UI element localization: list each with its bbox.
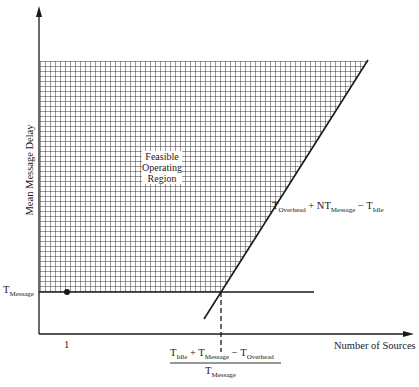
x-axis-label: Number of Sources bbox=[334, 340, 416, 351]
region-label-line-1: Feasible bbox=[142, 151, 182, 162]
num-sub-1: Idle bbox=[176, 353, 187, 361]
t-message-label: TMessage bbox=[3, 284, 34, 295]
region-label-line-2: Operating bbox=[142, 162, 182, 173]
t-message-sub: Message bbox=[9, 290, 34, 298]
den-sub: Message bbox=[211, 371, 236, 379]
eq-sub-2: Message bbox=[331, 206, 356, 214]
num-sub-2: Message bbox=[205, 353, 230, 361]
eq-sub-1: Overhead bbox=[278, 206, 305, 214]
eq-term-3: − T bbox=[355, 200, 372, 211]
intersection-numerator: TIdle + TMessage − TOverhead bbox=[170, 347, 274, 358]
diagonal-line-equation: TOverhead + NTMessage − TIdle bbox=[272, 200, 384, 211]
x-axis-arrow-icon bbox=[403, 331, 414, 337]
num-term-3: − T bbox=[229, 347, 246, 358]
diagram-canvas bbox=[0, 0, 419, 387]
x-tick-1: 1 bbox=[64, 339, 69, 350]
intersection-denominator: TMessage bbox=[205, 365, 236, 376]
feasible-region bbox=[40, 61, 367, 292]
region-label-line-3: Region bbox=[142, 173, 182, 184]
num-term-2: + T bbox=[187, 347, 204, 358]
eq-term-2: + NT bbox=[306, 200, 331, 211]
y-axis-label: Mean Message Delay bbox=[24, 125, 35, 216]
eq-sub-3: Idle bbox=[373, 206, 384, 214]
num-sub-3: Overhead bbox=[247, 353, 274, 361]
n1-point-marker bbox=[64, 289, 70, 295]
feasible-region-label: Feasible Operating Region bbox=[142, 151, 182, 184]
y-axis-arrow-icon bbox=[36, 6, 42, 17]
